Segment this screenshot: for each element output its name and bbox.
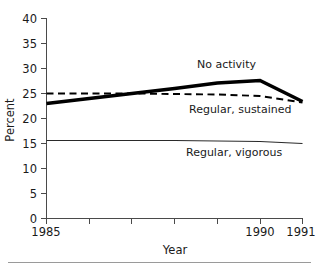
series-line-no-activity: [47, 81, 303, 104]
y-tick-label-5: 5: [30, 187, 37, 201]
line-chart: 40 35 30 25 20 15 10 5 0 1985 1990 1991 …: [0, 0, 319, 265]
y-tick-label-20: 20: [22, 112, 37, 126]
y-tick-label-30: 30: [22, 62, 37, 76]
y-tick-label-35: 35: [22, 37, 37, 51]
annotation-regular-vigorous: Regular, vigorous: [186, 146, 282, 159]
x-tick-label-1991: 1991: [286, 225, 315, 239]
y-tick-label-15: 15: [22, 137, 37, 151]
y-tick-label-25: 25: [22, 87, 37, 101]
x-tick-label-1990: 1990: [245, 225, 274, 239]
annotation-no-activity: No activity: [197, 58, 256, 71]
chart-figure: 40 35 30 25 20 15 10 5 0 1985 1990 1991 …: [0, 0, 319, 265]
y-axis-title: Percent: [3, 98, 17, 142]
annotation-regular-sustained: Regular, sustained: [189, 103, 291, 116]
x-axis-title: Year: [162, 243, 188, 257]
x-tick-label-1985: 1985: [31, 225, 60, 239]
y-tick-label-0: 0: [30, 212, 37, 226]
series-line-regular-vigorous: [47, 141, 303, 144]
y-tick-label-10: 10: [22, 162, 37, 176]
y-tick-label-40: 40: [22, 12, 37, 26]
